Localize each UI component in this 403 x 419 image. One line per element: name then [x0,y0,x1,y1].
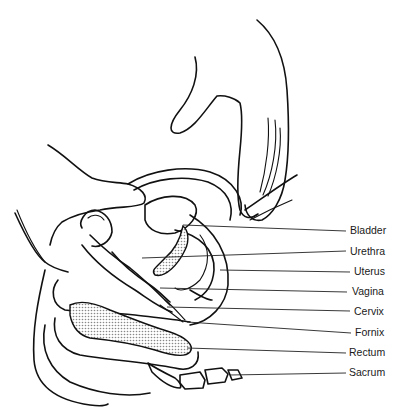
label-sacrum: Sacrum [349,366,385,378]
vaginal-hand [15,145,145,272]
sacrum [148,363,242,389]
uterus-outline [128,169,241,325]
label-bladder: Bladder [350,224,386,236]
label-rectum: Rectum [349,346,385,358]
label-urethra: Urethra [350,245,385,257]
label-cervix: Cervix [354,305,384,317]
anatomy-diagram [0,0,403,419]
label-fornix: Fornix [355,326,384,338]
label-vagina: Vagina [352,285,384,297]
abdominal-hand [171,20,297,220]
label-uterus: Uterus [354,265,385,277]
